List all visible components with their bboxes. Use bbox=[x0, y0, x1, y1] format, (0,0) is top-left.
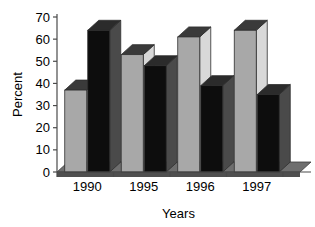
bar-side-face bbox=[279, 85, 290, 173]
y-axis-tick-label: 20 bbox=[36, 120, 50, 135]
bar-side-face bbox=[223, 76, 234, 172]
bar bbox=[257, 85, 290, 173]
bar-side-face bbox=[110, 20, 121, 172]
bar-front-face bbox=[257, 95, 279, 173]
x-axis-title: Years bbox=[162, 206, 195, 221]
floor-front bbox=[57, 172, 300, 177]
x-axis-tick-label: 1990 bbox=[73, 179, 102, 194]
y-axis-tick-label: 70 bbox=[36, 10, 50, 25]
bar bbox=[88, 20, 121, 172]
bar-front-face bbox=[65, 90, 87, 172]
y-axis-tick-label: 10 bbox=[36, 142, 50, 157]
y-axis-tick-label: 60 bbox=[36, 32, 50, 47]
bar-front-face bbox=[121, 55, 143, 172]
y-axis-tick-label: 30 bbox=[36, 98, 50, 113]
bar-side-face bbox=[166, 56, 177, 172]
y-axis-title: Percent bbox=[10, 72, 25, 117]
x-axis-tick-label: 1996 bbox=[186, 179, 215, 194]
y-axis-tick-label: 40 bbox=[36, 76, 50, 91]
bar-front-face bbox=[178, 37, 200, 172]
bar-chart: 0102030405060701990199519961997YearsPerc… bbox=[0, 0, 315, 227]
bar bbox=[201, 76, 234, 172]
y-axis-tick-label: 0 bbox=[43, 165, 50, 180]
bar bbox=[144, 56, 177, 172]
bar-front-face bbox=[144, 66, 166, 172]
x-axis-tick-label: 1997 bbox=[242, 179, 271, 194]
y-axis: 010203040506070 bbox=[36, 10, 57, 180]
bars-group bbox=[65, 20, 291, 172]
bar-front-face bbox=[88, 30, 110, 172]
y-axis-tick-label: 50 bbox=[36, 54, 50, 69]
x-axis-category-labels: 1990199519961997 bbox=[73, 179, 271, 194]
chart-canvas: 0102030405060701990199519961997YearsPerc… bbox=[0, 0, 315, 227]
bar-front-face bbox=[234, 30, 256, 172]
x-axis-tick-label: 1995 bbox=[129, 179, 158, 194]
bar-front-face bbox=[201, 86, 223, 172]
